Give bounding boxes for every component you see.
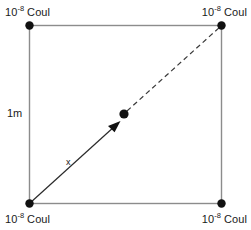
charge-label-unit: Coul <box>224 213 247 225</box>
diagram-canvas <box>0 0 251 230</box>
charge-label-exponent: -8 <box>214 211 221 220</box>
charge-label-top-left: 10-8Coul <box>5 5 50 18</box>
charge-dot-bottom-right <box>217 199 225 207</box>
charge-label-exponent: -8 <box>214 4 221 13</box>
charge-label-top-right: 10-8Coul <box>202 5 247 18</box>
charge-dot-top-left <box>25 21 33 29</box>
side-length-label: 1m <box>7 108 22 119</box>
charge-label-unit: Coul <box>27 6 50 18</box>
distance-arrow-shaft <box>30 126 115 203</box>
charge-label-unit: Coul <box>224 6 247 18</box>
charge-label-mantissa: 10 <box>202 213 214 225</box>
test-point-dot <box>119 109 128 118</box>
charge-label-exponent: -8 <box>17 4 24 13</box>
charge-label-bottom-left: 10-8Coul <box>5 212 50 225</box>
charge-label-bottom-right: 10-8Coul <box>202 212 247 225</box>
diagonal-dashed-segment <box>127 26 221 111</box>
charge-label-unit: Coul <box>27 213 50 225</box>
charge-dot-top-right <box>217 21 225 29</box>
charge-label-mantissa: 10 <box>202 6 214 18</box>
distance-label: x <box>66 158 71 167</box>
charge-label-exponent: -8 <box>17 211 24 220</box>
charge-label-mantissa: 10 <box>5 6 17 18</box>
charge-dot-bottom-left <box>25 199 33 207</box>
charge-label-mantissa: 10 <box>5 213 17 225</box>
charges-square-diagram: 10-8Coul 10-8Coul 10-8Coul 10-8Coul 1m x <box>0 0 251 230</box>
